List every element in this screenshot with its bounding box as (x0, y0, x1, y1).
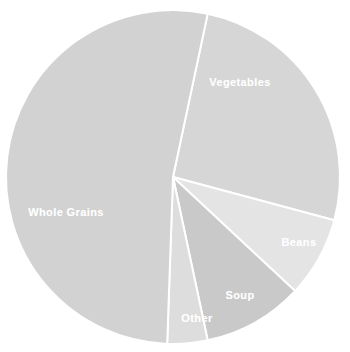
pie-chart-canvas (0, 0, 350, 352)
pie-chart-figure: s VegetablesBeansSoupOtherWhole Grains (0, 0, 350, 352)
